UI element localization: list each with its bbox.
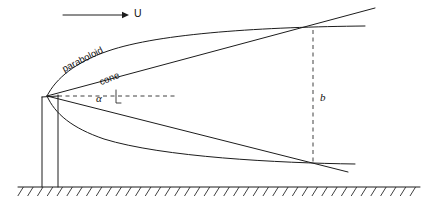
hatch-stroke — [204, 187, 210, 196]
paraboloid-label: paraboloid — [60, 44, 105, 74]
hatch-stroke — [18, 187, 24, 196]
flow-velocity-label: U — [134, 7, 142, 19]
hatch-stroke — [361, 187, 367, 196]
hatch-stroke — [135, 187, 141, 196]
hatch-stroke — [155, 187, 161, 196]
hatch-stroke — [312, 187, 318, 196]
width-b-label: b — [320, 91, 326, 103]
flow-arrow-group: U — [63, 7, 142, 19]
flow-arrow-head-icon — [122, 12, 129, 18]
diagram-svg: U α b paraboloid cone — [0, 0, 436, 211]
hatch-stroke — [302, 187, 308, 196]
hatch-stroke — [400, 187, 406, 196]
hatch-stroke — [165, 187, 171, 196]
hatch-stroke — [410, 187, 416, 196]
hatch-stroke — [145, 187, 151, 196]
hatch-stroke — [292, 187, 298, 196]
hatch-stroke — [332, 187, 338, 196]
hatch-stroke — [126, 187, 132, 196]
hatch-stroke — [37, 187, 43, 196]
hatch-stroke — [175, 187, 181, 196]
ground-hatching — [18, 187, 416, 196]
hatch-stroke — [351, 187, 357, 196]
figure-canvas: U α b paraboloid cone — [0, 0, 436, 211]
hatch-stroke — [263, 187, 269, 196]
hatch-stroke — [96, 187, 102, 196]
angle-tick-mark — [116, 90, 121, 103]
hatch-stroke — [283, 187, 289, 196]
hatch-stroke — [77, 187, 83, 196]
hatch-stroke — [116, 187, 122, 196]
hatch-stroke — [322, 187, 328, 196]
upper-paraboloid-curve — [47, 26, 365, 96]
hatch-stroke — [381, 187, 387, 196]
angle-alpha-label: α — [96, 92, 102, 104]
hatch-stroke — [390, 187, 396, 196]
hatch-stroke — [67, 187, 73, 196]
hatch-stroke — [86, 187, 92, 196]
hatch-stroke — [273, 187, 279, 196]
hatch-stroke — [194, 187, 200, 196]
post-top-edge — [42, 96, 58, 97]
hatch-stroke — [253, 187, 259, 196]
hatch-stroke — [47, 187, 53, 196]
hatch-stroke — [106, 187, 112, 196]
hatch-stroke — [214, 187, 220, 196]
hatch-stroke — [234, 187, 240, 196]
hatch-stroke — [371, 187, 377, 196]
lower-paraboloid-curve — [47, 96, 355, 164]
hatch-stroke — [224, 187, 230, 196]
cone-label: cone — [98, 69, 121, 87]
hatch-stroke — [185, 187, 191, 196]
hatch-stroke — [57, 187, 63, 196]
hatch-stroke — [341, 187, 347, 196]
hatch-stroke — [28, 187, 34, 196]
hatch-stroke — [243, 187, 249, 196]
